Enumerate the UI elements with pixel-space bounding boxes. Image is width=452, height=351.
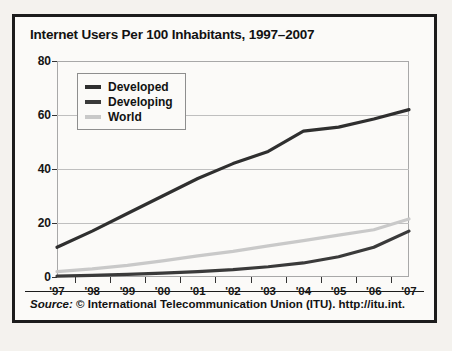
legend-item-developing: Developing — [85, 94, 173, 109]
legend-label: Developed — [108, 80, 169, 94]
legend-item-world: World — [85, 109, 173, 124]
chart-figure: Internet Users Per 100 Inhabitants, 1997… — [12, 14, 437, 323]
x-axis-tick-mark — [145, 277, 146, 283]
legend-label: World — [108, 110, 142, 124]
source-note: Source: © International Telecommunicatio… — [30, 298, 405, 310]
legend-swatch-icon — [85, 100, 101, 104]
x-axis-tick-mark — [75, 277, 76, 283]
legend-swatch-icon — [85, 85, 101, 89]
y-axis-tick-label: 20 — [38, 216, 51, 230]
legend-label: Developing — [108, 95, 173, 109]
chart-legend: DevelopedDevelopingWorld — [77, 73, 186, 130]
source-label: Source: — [30, 298, 73, 310]
source-attribution: © International Telecommunication Union … — [73, 298, 405, 310]
plot-area: 020406080 '97'98'99'00'01'02'03'04'05'06… — [57, 61, 409, 277]
series-line-developing — [57, 231, 409, 276]
x-axis-tick-mark — [180, 277, 181, 283]
y-axis-tick-label: 60 — [38, 108, 51, 122]
series-line-world — [57, 219, 409, 272]
legend-swatch-icon — [85, 115, 101, 119]
series-line-developed — [57, 110, 409, 248]
x-axis-tick-mark — [321, 277, 322, 283]
x-axis-tick-mark — [110, 277, 111, 283]
x-axis-tick-mark — [286, 277, 287, 283]
x-axis-tick-mark — [215, 277, 216, 283]
x-axis-tick-mark — [391, 277, 392, 283]
y-axis-tick-label: 0 — [44, 270, 51, 284]
y-axis-tick-label: 40 — [38, 162, 51, 176]
legend-item-developed: Developed — [85, 79, 173, 94]
x-axis-tick-mark — [251, 277, 252, 283]
x-axis-tick-mark — [356, 277, 357, 283]
chart-title: Internet Users Per 100 Inhabitants, 1997… — [30, 27, 314, 42]
source-divider — [25, 291, 424, 292]
y-axis-tick-label: 80 — [38, 54, 51, 68]
